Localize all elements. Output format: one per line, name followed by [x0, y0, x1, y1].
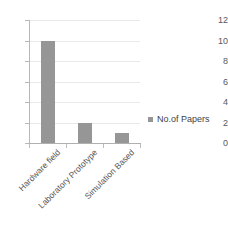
- bar: [115, 133, 129, 143]
- bar-chart: 024681012 Hardware fieldLaboratory Proto…: [0, 0, 228, 239]
- legend-label: No.of Papers: [157, 114, 210, 124]
- square-marker-icon: [148, 117, 153, 122]
- x-axis-tick: [103, 144, 104, 148]
- x-axis-tick: [29, 144, 30, 148]
- y-axis-tick-label: 10: [206, 37, 228, 46]
- y-axis-tick-label: 12: [206, 16, 228, 25]
- y-axis-tick-label: 8: [206, 57, 228, 66]
- y-axis-line: [29, 20, 30, 144]
- y-axis-tick-label: 0: [206, 139, 228, 148]
- x-axis-line: [29, 143, 141, 144]
- bar: [41, 41, 55, 144]
- bar: [78, 123, 92, 144]
- plot-area: [29, 20, 140, 143]
- y-axis-tick-label: 6: [206, 78, 228, 87]
- y-axis-tick-label: 4: [206, 98, 228, 107]
- x-axis-tick: [66, 144, 67, 148]
- x-axis-tick: [140, 144, 141, 148]
- legend: No.of Papers: [148, 114, 210, 124]
- gridline: [29, 20, 140, 21]
